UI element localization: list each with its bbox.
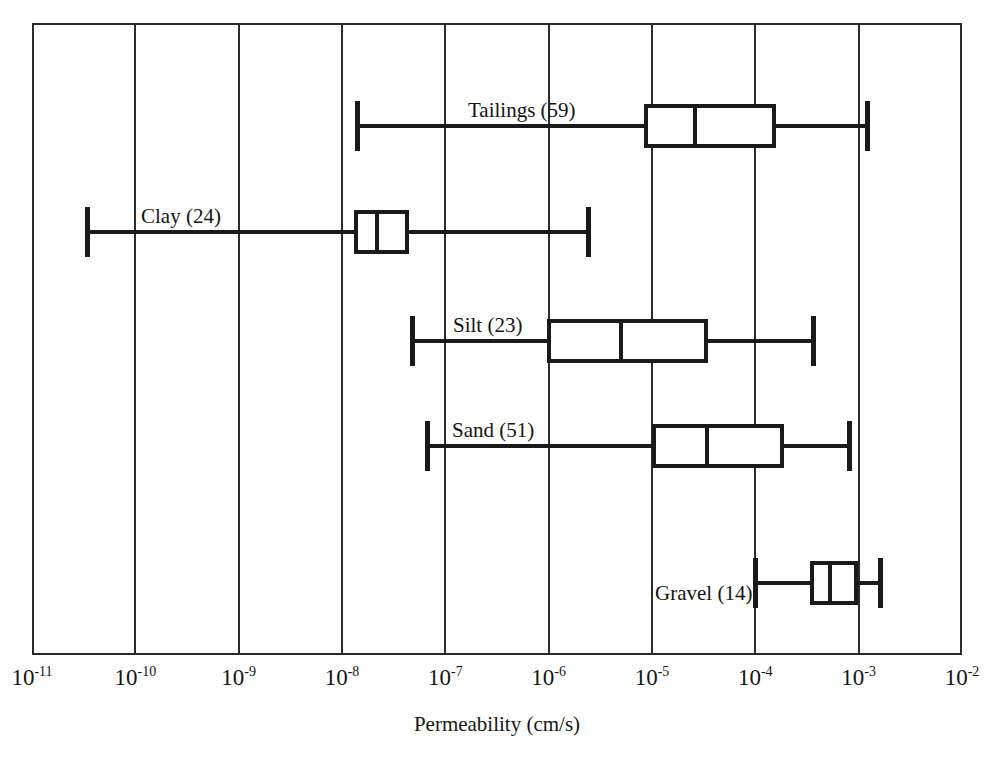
series-label-clay: Clay (24) (141, 206, 221, 227)
box-iqr (547, 319, 708, 363)
whisker-cap-min (410, 316, 415, 366)
median-line (693, 104, 697, 148)
x-tick-label: 10-7 (428, 666, 463, 689)
x-tick-label: 10-4 (738, 666, 773, 689)
x-tick-label: 10-11 (11, 666, 52, 689)
whisker-left (87, 230, 354, 234)
box-iqr (644, 104, 777, 148)
gridline (341, 23, 343, 655)
whisker-cap-max (586, 207, 591, 257)
whisker-cap-max (865, 101, 870, 151)
series-label-tailings: Tailings (59) (468, 100, 576, 121)
whisker-cap-min (753, 558, 758, 608)
whisker-cap-min (85, 207, 90, 257)
whisker-cap-min (355, 101, 360, 151)
x-tick-label: 10-9 (221, 666, 256, 689)
median-line (619, 319, 623, 363)
x-tick-label: 10-5 (635, 666, 670, 689)
series-label-sand: Sand (51) (452, 420, 534, 441)
box-iqr (354, 210, 410, 254)
whisker-right (858, 581, 880, 585)
median-line (828, 561, 832, 605)
x-tick-label: 10-10 (114, 666, 156, 689)
whisker-cap-min (425, 421, 430, 471)
whisker-cap-max (878, 558, 883, 608)
x-tick-label: 10-8 (325, 666, 360, 689)
whisker-right (708, 339, 813, 343)
box-iqr (652, 424, 784, 468)
box-plot-chart: Tailings (59)Clay (24)Silt (23)Sand (51)… (0, 0, 1008, 777)
whisker-right (776, 124, 866, 128)
box-iqr (810, 561, 858, 605)
x-axis-title: Permeability (cm/s) (414, 714, 580, 735)
whisker-right (409, 230, 587, 234)
whisker-left (412, 339, 546, 343)
median-line (705, 424, 709, 468)
gridline (134, 23, 136, 655)
whisker-left (427, 444, 652, 448)
whisker-cap-max (811, 316, 816, 366)
whisker-right (784, 444, 849, 448)
x-tick-label: 10-3 (841, 666, 876, 689)
x-tick-label: 10-6 (531, 666, 566, 689)
whisker-cap-max (847, 421, 852, 471)
gridline (858, 23, 860, 655)
x-tick-label: 10-2 (945, 666, 980, 689)
whisker-left (357, 124, 644, 128)
series-label-gravel: Gravel (14) (655, 583, 752, 604)
median-line (375, 210, 379, 254)
whisker-left (755, 581, 810, 585)
series-label-silt: Silt (23) (453, 315, 522, 336)
gridline (238, 23, 240, 655)
